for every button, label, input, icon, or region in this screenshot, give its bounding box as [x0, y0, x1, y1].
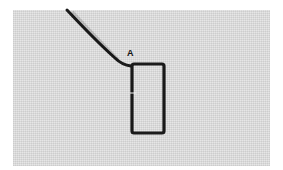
point-label-a: A: [127, 48, 134, 58]
thread-stitch-diagram: [0, 0, 283, 170]
thread-shadow: [72, 12, 118, 60]
rectangle-stitch: [132, 64, 164, 133]
